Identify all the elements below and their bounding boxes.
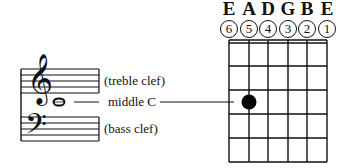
middle-c-note [53,98,65,105]
middle-c-label: middle C [108,95,156,109]
string-name-6: E [223,2,236,16]
string-number-3: 3 [279,20,297,38]
string-name-5: A [242,2,256,16]
string-number-6: 6 [220,20,238,38]
string-number-2: 2 [298,20,316,38]
string-name-2: B [301,2,314,16]
string-name-1: E [321,2,334,16]
bass-clef-label-text: (bass clef) [104,122,158,136]
treble-clef-icon: 𝄞 [27,56,53,100]
treble-clef-label: (treble clef) [104,74,165,88]
middle-c-fret-dot [242,95,257,110]
string-name-4: D [261,2,275,16]
string-name-3: G [281,2,296,16]
string-number-4: 4 [259,20,277,38]
string-number-1: 1 [318,20,336,38]
string-number-5: 5 [240,20,258,38]
bass-clef-icon: 𝄢 [25,110,47,144]
